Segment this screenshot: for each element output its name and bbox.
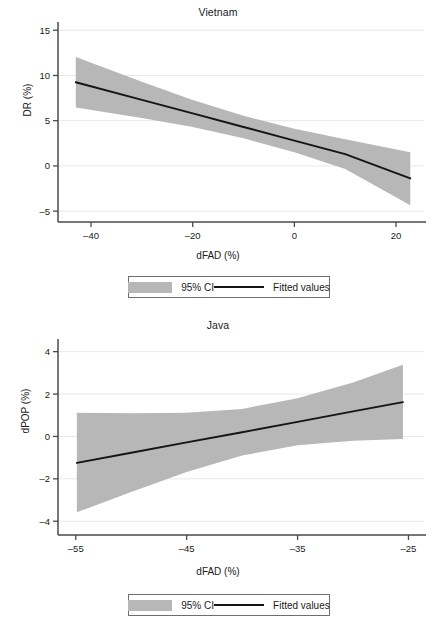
legend-item-ci-java: 95% CI: [128, 600, 214, 611]
plot-area-java: –4–2024–55–45–35–25: [0, 313, 436, 578]
legend-label-fit: Fitted values: [273, 282, 330, 293]
legend-vietnam: 95% CI Fitted values: [128, 276, 330, 298]
y-axis-label-java: dPOP (%): [20, 341, 31, 481]
legend-item-fit-vietnam: Fitted values: [214, 282, 330, 293]
legend-java: 95% CI Fitted values: [128, 594, 330, 616]
x-axis-label-java: dFAD (%): [0, 566, 436, 577]
legend-label-fit: Fitted values: [273, 600, 330, 611]
y-axis-label-vietnam: DR (%): [22, 40, 33, 160]
svg-text:–20: –20: [185, 230, 201, 241]
svg-text:–45: –45: [179, 543, 195, 554]
svg-text:–4: –4: [39, 516, 50, 527]
svg-text:20: 20: [391, 230, 402, 241]
svg-text:2: 2: [45, 389, 50, 400]
legend-line-fit-icon: [214, 286, 264, 288]
svg-text:–55: –55: [68, 543, 84, 554]
plot-area-vietnam: –5051015–40–20020: [0, 0, 436, 265]
legend-swatch-ci-icon: [128, 282, 172, 293]
legend-label-ci: 95% CI: [181, 600, 214, 611]
svg-text:–2: –2: [39, 473, 50, 484]
svg-text:–35: –35: [290, 543, 306, 554]
chart-panel-vietnam: Vietnam –5051015–40–20020 dFAD (%) DR (%…: [0, 0, 436, 310]
legend-swatch-ci-icon: [128, 600, 172, 611]
legend-label-ci: 95% CI: [181, 282, 214, 293]
svg-text:5: 5: [45, 115, 50, 126]
svg-text:4: 4: [45, 346, 50, 357]
svg-text:–25: –25: [401, 543, 417, 554]
svg-text:10: 10: [39, 70, 50, 81]
legend-item-fit-java: Fitted values: [214, 600, 330, 611]
x-axis-label-vietnam: dFAD (%): [0, 250, 436, 261]
legend-item-ci-vietnam: 95% CI: [128, 282, 214, 293]
chart-panel-java: Java –4–2024–55–45–35–25 dFAD (%) dPOP (…: [0, 313, 436, 630]
svg-text:–40: –40: [83, 230, 99, 241]
svg-text:0: 0: [45, 160, 50, 171]
svg-text:–5: –5: [39, 206, 50, 217]
svg-text:0: 0: [292, 230, 297, 241]
svg-text:15: 15: [39, 25, 50, 36]
legend-line-fit-icon: [214, 604, 264, 606]
svg-text:0: 0: [45, 431, 50, 442]
